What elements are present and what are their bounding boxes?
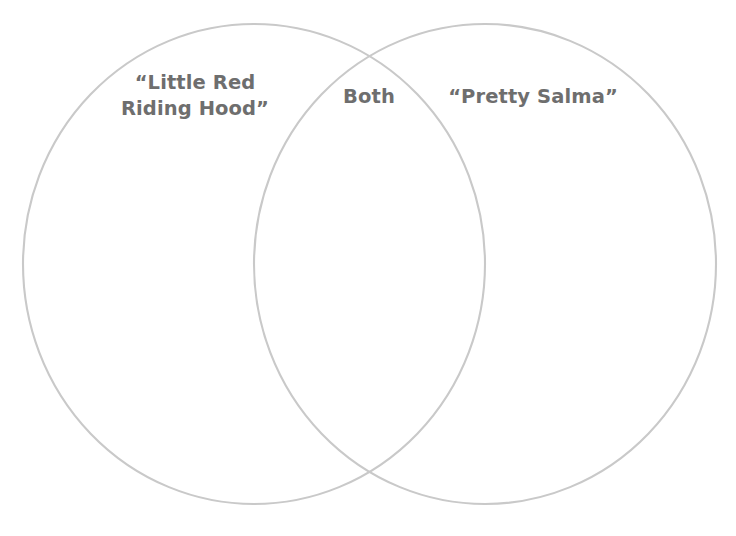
right-circle-label: “Pretty Salma” [423,84,643,110]
overlap-label: Both [314,84,424,110]
venn-diagram-page: “Little Red Riding Hood” Both “Pretty Sa… [0,0,736,536]
left-circle-label: “Little Red Riding Hood” [65,70,325,122]
